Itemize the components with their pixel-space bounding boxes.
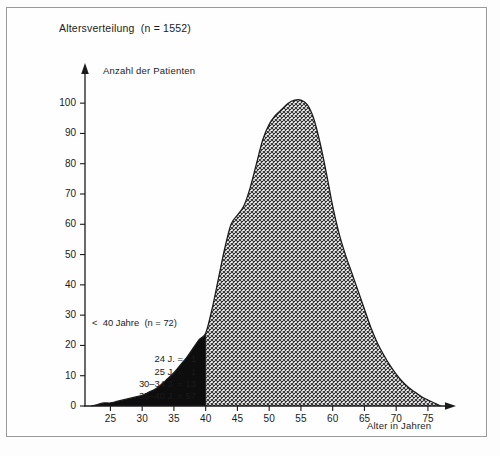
chart-title: Altersverteilung (n = 1552) [59, 22, 191, 34]
annotation-heading: < 40 Jahre (n = 72) [92, 317, 196, 329]
x-tick-label-75: 75 [415, 413, 441, 424]
y-axis-title: Anzahl der Patienten [103, 65, 195, 76]
y-tick-label-70: 70 [50, 188, 76, 199]
x-tick-label-40: 40 [193, 413, 219, 424]
x-tick-label-50: 50 [256, 413, 282, 424]
y-tick-label-50: 50 [50, 249, 76, 260]
x-tick-label-55: 55 [288, 413, 314, 424]
x-tick-label-70: 70 [383, 413, 409, 424]
y-tick-label-0: 0 [50, 400, 76, 411]
y-tick-label-40: 40 [50, 279, 76, 290]
x-axis-arrowhead [445, 402, 456, 410]
y-axis-ticks [80, 103, 85, 406]
x-tick-label-45: 45 [224, 413, 250, 424]
figure-frame: Altersverteilung (n = 1552) Anzahl der P… [0, 0, 500, 456]
x-axis-ticks [110, 406, 428, 411]
under-40-annotation: < 40 Jahre (n = 72) 24 J. = 125 J. = 130… [92, 293, 196, 402]
x-tick-label-35: 35 [161, 413, 187, 424]
y-tick-label-30: 30 [50, 309, 76, 320]
annotation-line-2: 30–34 J. = 13 [92, 378, 196, 390]
annotation-line-3: 35–40 J. = 57 [92, 390, 196, 402]
y-tick-label-90: 90 [50, 127, 76, 138]
y-tick-label-80: 80 [50, 158, 76, 169]
x-tick-label-65: 65 [351, 413, 377, 424]
y-tick-label-100: 100 [50, 97, 76, 108]
y-tick-label-20: 20 [50, 339, 76, 350]
annotation-line-0: 24 J. = 1 [92, 353, 196, 365]
annotation-line-1: 25 J. = 1 [92, 366, 196, 378]
y-tick-label-10: 10 [50, 370, 76, 381]
y-axis-arrowhead [81, 63, 89, 74]
x-tick-label-60: 60 [320, 413, 346, 424]
x-tick-label-25: 25 [97, 413, 123, 424]
x-tick-label-30: 30 [129, 413, 155, 424]
y-tick-label-60: 60 [50, 218, 76, 229]
